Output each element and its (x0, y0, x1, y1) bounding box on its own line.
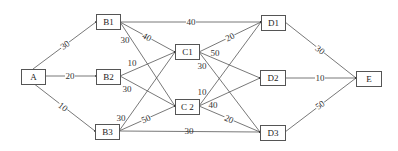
edge-weight-text: 30 (185, 126, 195, 136)
edge-weight-label: 50 (139, 112, 152, 125)
edge-weight-text: 10 (128, 58, 138, 68)
edge-weight-label: 30 (185, 126, 195, 136)
node-label: D2 (268, 73, 279, 83)
node-a: A (22, 70, 46, 85)
edge-weight-label: 50 (211, 48, 221, 58)
edge-weight-text: 10 (198, 87, 208, 97)
edge-weight-label: 30 (198, 61, 208, 71)
edge-weight-label: 10 (198, 87, 208, 97)
node-c2: C 2 (176, 100, 200, 115)
edge-weight-text: 10 (316, 73, 326, 83)
node-label: C1 (182, 47, 193, 57)
node-e: E (357, 72, 382, 87)
edge-weight-text: 50 (140, 112, 153, 125)
edge-weight-text: 50 (211, 48, 221, 58)
node-label: D1 (268, 18, 279, 28)
node-label: B3 (102, 127, 113, 137)
edge-weight-text: 30 (121, 35, 131, 45)
edges-layer (33, 21, 357, 133)
node-d3: D3 (261, 126, 286, 141)
node-label: B1 (103, 17, 114, 27)
edge-weight-label: 30 (58, 38, 72, 52)
edge-weight-text: 40 (187, 17, 197, 27)
node-b2: B2 (97, 70, 121, 85)
edge-weight-label: 40 (140, 30, 154, 44)
nodes-layer: AB1B2B3C1C 2D1D2D3E (22, 15, 382, 141)
edge-weight-label: 10 (315, 73, 325, 83)
edge-weight-label: 40 (209, 100, 219, 110)
edge-weight-label: 30 (117, 113, 127, 123)
edge-weight-label: 20 (223, 30, 236, 43)
edge-weight-text: 40 (141, 30, 154, 43)
node-d2: D2 (261, 71, 286, 86)
edge-weight-label: 20 (65, 71, 75, 81)
edge-weight-text: 30 (123, 84, 133, 94)
edge-weight-label: 50 (313, 98, 327, 112)
node-label: A (30, 72, 37, 82)
node-label: B2 (103, 72, 114, 82)
network-graph: 3020104040301030305030205030104020301050… (0, 0, 398, 151)
node-label: D3 (268, 128, 279, 138)
node-label: C 2 (181, 102, 194, 112)
node-b1: B1 (97, 15, 121, 30)
edge-weight-text: 40 (209, 100, 219, 110)
edge-weight-label: 20 (222, 112, 235, 125)
edge-weight-label: 10 (128, 58, 138, 68)
edge-weight-text: 20 (223, 113, 236, 126)
edge-weight-text: 30 (313, 43, 327, 57)
node-b3: B3 (96, 125, 120, 140)
edge-weight-text: 30 (198, 61, 208, 71)
node-d1: D1 (262, 16, 286, 31)
edge-weight-text: 20 (224, 30, 237, 43)
edge-weight-text: 50 (313, 98, 327, 112)
edge-weight-label: 40 (186, 17, 196, 27)
node-c1: C1 (176, 45, 200, 60)
edge-weight-text: 30 (117, 113, 127, 123)
edge-weight-label: 30 (313, 43, 327, 57)
edge-weight-label: 30 (121, 35, 131, 45)
edge-weight-text: 30 (58, 38, 72, 52)
node-label: E (366, 74, 372, 84)
edge-weight-text: 20 (66, 71, 76, 81)
edge-weight-label: 30 (123, 84, 133, 94)
